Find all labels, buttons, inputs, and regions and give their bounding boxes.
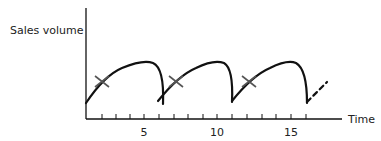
x-ticks <box>102 114 306 119</box>
x-marker-2 <box>169 76 183 87</box>
life-cycle-chart: 5 10 15 Sales volume Time <box>0 0 381 141</box>
x-marker-3 <box>242 76 256 87</box>
x-axis-label: Time <box>347 113 375 126</box>
x-marker-1 <box>95 76 109 87</box>
tick-label-10: 10 <box>210 126 224 139</box>
cycle-3-curve <box>232 62 307 103</box>
tick-label-15: 15 <box>284 126 298 139</box>
projected-curve <box>307 82 327 102</box>
cycle-2-curve <box>158 62 232 102</box>
cycle-1-curve <box>86 62 163 104</box>
y-axis-label: Sales volume <box>10 24 84 37</box>
tick-label-5: 5 <box>141 126 148 139</box>
